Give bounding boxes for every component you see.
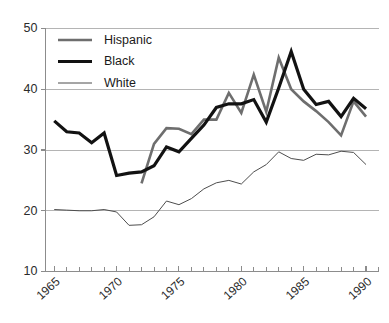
y-tick-label-10: 10	[24, 264, 38, 278]
series-line-hispanic	[142, 58, 367, 184]
chart-canvas: 1020304050 196519701975198019851990 Hisp…	[0, 0, 389, 323]
y-tick-label-50: 50	[24, 21, 38, 35]
y-axis-tick-labels: 1020304050	[24, 21, 38, 278]
x-tick-label-1965: 1965	[34, 274, 63, 302]
legend-label-black: Black	[104, 54, 135, 68]
y-tick-label-30: 30	[24, 143, 38, 157]
y-tick-label-20: 20	[24, 204, 38, 218]
x-axis-tick-labels: 196519701975198019851990	[34, 274, 375, 302]
x-tick-label-1985: 1985	[283, 274, 312, 302]
x-tick-label-1980: 1980	[221, 274, 250, 302]
x-tick-label-1970: 1970	[96, 274, 125, 302]
data-series	[54, 52, 366, 226]
legend-label-hispanic: Hispanic	[104, 33, 152, 47]
y-tick-label-40: 40	[24, 82, 38, 96]
line-chart: 1020304050 196519701975198019851990 Hisp…	[0, 0, 389, 323]
x-tick-label-1990: 1990	[345, 274, 374, 302]
x-tick-label-1975: 1975	[158, 274, 187, 302]
series-line-white	[54, 151, 366, 225]
legend-label-white: White	[104, 76, 136, 90]
chart-legend: HispanicBlackWhite	[58, 33, 152, 90]
